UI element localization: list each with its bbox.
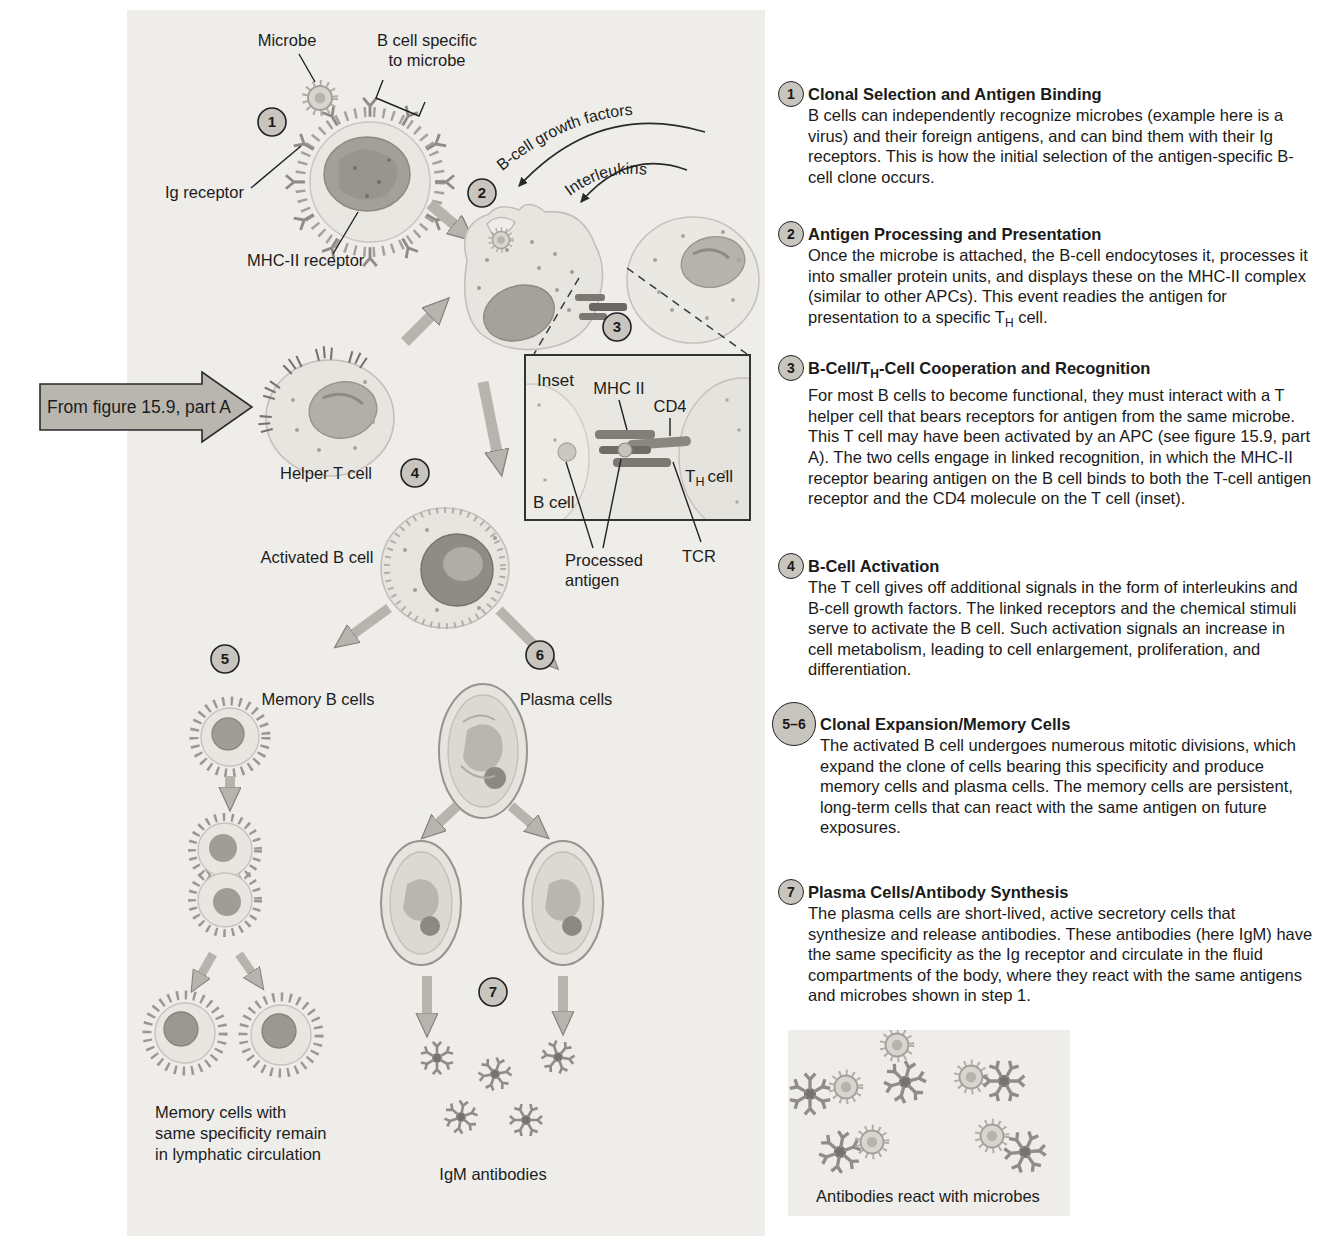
- svg-text:4: 4: [411, 464, 420, 481]
- section-2-body: Once the microbe is attached, the B-cell…: [808, 245, 1314, 334]
- b-cell-step2: [465, 204, 603, 349]
- arrow-to-memory: [345, 608, 389, 640]
- section-5-6-body: The activated B cell undergoes numerous …: [820, 735, 1314, 838]
- arrow-tcell-up: [405, 308, 439, 342]
- figure-page: Microbe B cell specific to microbe 1 Ig …: [0, 0, 1322, 1244]
- section-1-body: B cells can independently recognize micr…: [808, 105, 1314, 187]
- svg-text:1: 1: [268, 113, 276, 130]
- step-circle-4: 4: [401, 459, 429, 487]
- processed-antigen-label-2: antigen: [565, 571, 619, 589]
- step-badge-1-num: 1: [787, 86, 795, 102]
- svg-text:2: 2: [478, 184, 486, 201]
- svg-text:7: 7: [489, 983, 497, 1000]
- memory-b-cells-label: Memory B cells: [262, 690, 375, 708]
- section-7-title: Plasma Cells/Antibody Synthesis: [808, 882, 1314, 902]
- section-5-6-title: Clonal Expansion/Memory Cells: [820, 714, 1314, 734]
- step-circle-5: 5: [211, 645, 239, 673]
- step-badge-5-6: 5–6: [772, 702, 816, 746]
- section-4-title: B-Cell Activation: [808, 556, 1314, 576]
- section-7-body: The plasma cells are short-lived, active…: [808, 903, 1314, 1006]
- arrow-down-to-activated: [483, 382, 499, 462]
- inset-box: Inset MHC II CD4 B cell THcell: [473, 355, 765, 534]
- step-circle-2: 2: [468, 179, 496, 207]
- section-2: 2 Antigen Processing and Presentation On…: [778, 224, 1314, 334]
- section-7: 7 Plasma Cells/Antibody Synthesis The pl…: [778, 882, 1314, 1006]
- helper-t-cell-label: Helper T cell: [280, 464, 372, 482]
- activated-b-cell: [381, 508, 509, 628]
- step-badge-4-num: 4: [787, 558, 795, 574]
- step-badge-7-num: 7: [787, 884, 795, 900]
- step-circle-6: 6: [526, 641, 554, 669]
- step-badge-7: 7: [778, 879, 804, 905]
- processed-antigen-label-1: Processed: [565, 551, 643, 569]
- step-circle-7: 7: [479, 978, 507, 1006]
- inset-th-cell-label: THcell: [685, 467, 733, 489]
- inset-title: Inset: [537, 371, 574, 390]
- arrow-memory-right: [239, 954, 257, 980]
- step-badge-2: 2: [778, 221, 804, 247]
- antibody-panel-svg: Antibodies react with microbes: [788, 1030, 1070, 1216]
- section-3-title: B-Cell/TH-Cell Cooperation and Recogniti…: [808, 358, 1314, 384]
- memory-cell-1: [194, 701, 266, 773]
- section-3: 3 B-Cell/TH-Cell Cooperation and Recogni…: [778, 358, 1314, 509]
- b-cell-specific-label-2: to microbe: [388, 51, 465, 69]
- from-figure-label: From figure 15.9, part A: [47, 397, 231, 417]
- memory-cell-dividing: [192, 817, 258, 933]
- arrow-plasma-right: [511, 806, 539, 830]
- antibody-panel-caption: Antibodies react with microbes: [816, 1187, 1040, 1205]
- from-figure-arrow: From figure 15.9, part A: [38, 368, 256, 446]
- memory-cell-final-right: [243, 997, 319, 1073]
- section-3-body: For most B cells to become functional, t…: [808, 385, 1314, 509]
- svg-text:6: 6: [536, 646, 544, 663]
- igm-antibody-group: [421, 1034, 581, 1142]
- memory-cell-final-left: [147, 995, 223, 1071]
- step-badge-2-num: 2: [787, 226, 795, 242]
- b-cell-specific-label-1: B cell specific: [377, 31, 477, 49]
- microbe-glyph: [306, 84, 335, 113]
- step-circle-1: 1: [258, 108, 286, 136]
- step-badge-1: 1: [778, 81, 804, 107]
- tcr-label: TCR: [682, 547, 716, 565]
- inset-cd4-label: CD4: [653, 397, 686, 415]
- mhc-ii-receptor-label: MHC-II receptor: [247, 251, 365, 269]
- antibody-reaction-panel: Antibodies react with microbes: [788, 1030, 1070, 1216]
- t-cell-step2: [627, 217, 759, 343]
- arrow-plasma-left: [431, 806, 457, 830]
- plasma-cell-left: [381, 841, 461, 965]
- ig-receptor-label: Ig receptor: [165, 183, 244, 201]
- b-cell-step1: [286, 84, 454, 267]
- step-circle-3: 3: [603, 313, 631, 341]
- step-badge-5-6-num: 5–6: [782, 716, 805, 732]
- arrow-memory-left: [197, 954, 213, 982]
- antibody-microbe-pairs: [790, 1031, 1052, 1179]
- igm-antibodies-label: IgM antibodies: [439, 1165, 546, 1183]
- section-1: 1 Clonal Selection and Antigen Binding B…: [778, 84, 1314, 187]
- inset-mhc-ii-label: MHC II: [593, 379, 644, 397]
- plasma-cell-parent: [439, 684, 527, 818]
- activated-b-cell-label: Activated B cell: [261, 548, 374, 566]
- svg-text:3: 3: [613, 318, 621, 335]
- svg-text:5: 5: [221, 650, 229, 667]
- memory-note-line-3: in lymphatic circulation: [155, 1145, 321, 1163]
- microbe-label: Microbe: [258, 31, 317, 49]
- section-4: 4 B-Cell Activation The T cell gives off…: [778, 556, 1314, 680]
- step-badge-3: 3: [778, 355, 804, 381]
- helper-t-cell: [258, 346, 394, 476]
- plasma-cells-label: Plasma cells: [520, 690, 613, 708]
- diagram-panel: Microbe B cell specific to microbe 1 Ig …: [127, 10, 765, 1236]
- section-1-title: Clonal Selection and Antigen Binding: [808, 84, 1314, 104]
- inset-b-cell-label: B cell: [533, 493, 575, 512]
- step-badge-3-num: 3: [787, 360, 795, 376]
- step-badge-4: 4: [778, 553, 804, 579]
- memory-note-line-1: Memory cells with: [155, 1103, 286, 1121]
- diagram-svg: Microbe B cell specific to microbe 1 Ig …: [127, 10, 765, 1236]
- section-5-6: 5–6 Clonal Expansion/Memory Cells The ac…: [778, 714, 1314, 838]
- section-4-body: The T cell gives off additional signals …: [808, 577, 1314, 680]
- section-2-title: Antigen Processing and Presentation: [808, 224, 1314, 244]
- plasma-cell-right: [523, 841, 603, 965]
- interleukins-label: Interleukins: [562, 160, 649, 199]
- memory-note-line-2: same specificity remain: [155, 1124, 326, 1142]
